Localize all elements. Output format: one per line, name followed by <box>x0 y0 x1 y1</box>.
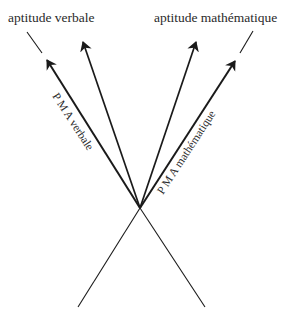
verbal-score-arrow <box>83 42 140 208</box>
axis-label-verbal: aptitude verbale <box>8 10 95 25</box>
vector-diagram: aptitude verbale aptitude mathématique P… <box>0 0 297 325</box>
pma-math-arrow <box>140 61 235 208</box>
axis-label-math: aptitude mathématique <box>154 10 277 25</box>
pma-verbal-label: P M A verbale <box>50 91 96 153</box>
pma-math-label: P M A mathématique <box>155 108 219 196</box>
math-axis-lower <box>78 208 140 307</box>
pma-verbal-arrow <box>47 60 140 208</box>
verbal-axis-lower <box>140 208 205 307</box>
